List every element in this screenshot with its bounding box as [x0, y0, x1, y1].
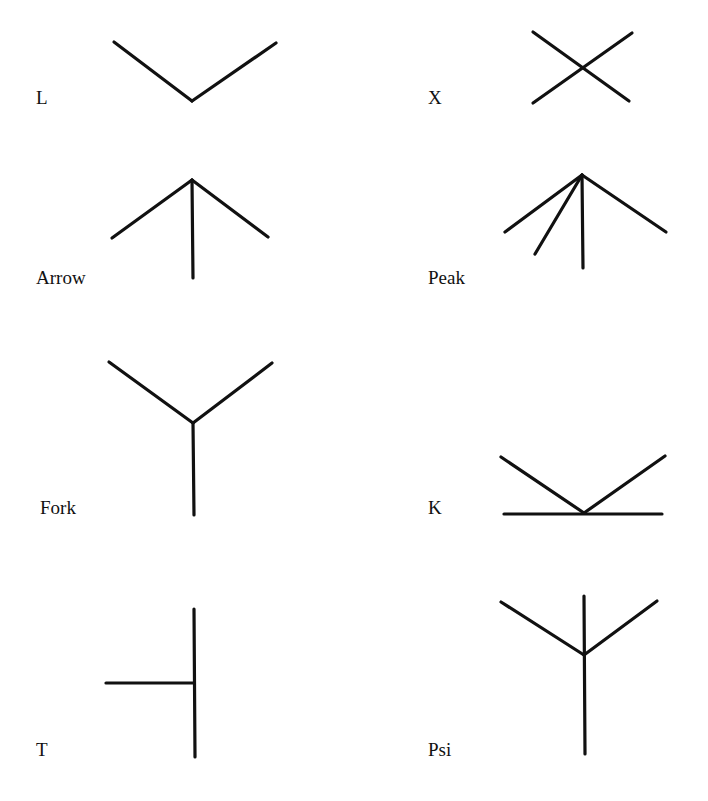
- edge-line: [582, 175, 666, 232]
- edge-line: [193, 363, 272, 423]
- edge-line: [192, 180, 268, 237]
- junction-psi-shape: [501, 596, 657, 754]
- edge-line: [533, 32, 629, 101]
- label-psi: Psi: [428, 740, 451, 759]
- edge-line: [505, 175, 582, 232]
- edge-line: [112, 180, 192, 238]
- junction-l-shape: [114, 42, 276, 101]
- edge-line: [582, 175, 583, 268]
- junction-arrow-shape: [112, 180, 268, 278]
- edge-line: [501, 602, 584, 655]
- junction-k-shape: [501, 456, 665, 514]
- edge-line: [192, 43, 276, 101]
- edge-line: [584, 456, 665, 513]
- label-peak: Peak: [428, 268, 465, 287]
- label-t: T: [36, 740, 48, 759]
- junction-fork-shape: [109, 362, 272, 515]
- junction-x-shape: [533, 32, 632, 103]
- label-fork: Fork: [40, 498, 76, 517]
- junction-t-shape: [106, 609, 195, 757]
- label-l: L: [36, 88, 48, 107]
- edge-line: [584, 596, 585, 754]
- edge-line: [109, 362, 193, 423]
- edge-line: [535, 175, 582, 254]
- junction-lines: [0, 0, 708, 801]
- edge-line: [584, 601, 657, 655]
- junction-types-figure: L X Arrow Peak Fork K T Psi: [0, 0, 708, 801]
- label-arrow: Arrow: [36, 268, 86, 287]
- label-k: K: [428, 498, 442, 517]
- label-x: X: [428, 88, 442, 107]
- edge-line: [192, 180, 193, 278]
- edge-line: [193, 423, 194, 515]
- edge-line: [501, 457, 584, 513]
- junction-peak-shape: [505, 175, 666, 268]
- edge-line: [114, 42, 192, 101]
